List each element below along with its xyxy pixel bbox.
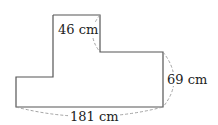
diagram-canvas: 46 cm 69 cm 181 cm [0,0,218,125]
bottom-width-label: 181 cm [70,109,119,124]
right-height-label: 69 cm [167,72,207,87]
top-width-label: 46 cm [58,22,98,37]
